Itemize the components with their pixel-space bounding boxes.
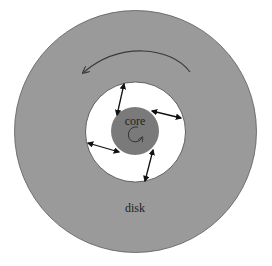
disk-core-diagram: core disk <box>0 0 272 266</box>
core-label: core <box>125 114 146 128</box>
disk-label: disk <box>125 201 145 215</box>
